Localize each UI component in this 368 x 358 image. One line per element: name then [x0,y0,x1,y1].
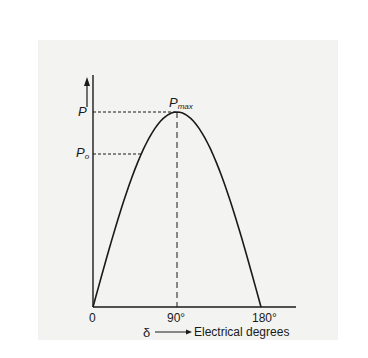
p0-label: Po [76,146,89,161]
x-arrow-icon [186,330,192,335]
delta-symbol: δ [143,326,150,339]
tick-180-label: 180° [252,312,277,324]
power-angle-plot [0,0,368,358]
p-label: P [78,105,87,118]
tick-90-label: 90° [167,312,185,324]
origin-label: 0 [89,312,96,324]
x-axis-label: Electrical degrees [194,326,289,338]
pmax-label: Pmax [169,96,193,111]
figure: P Po Pmax 0 90° 180° δ Electrical degree… [0,0,368,358]
